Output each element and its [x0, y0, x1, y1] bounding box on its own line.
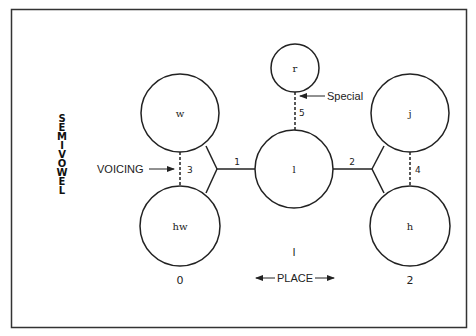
edge-1-label: 1	[234, 157, 240, 167]
edge-4-label: 4	[415, 165, 421, 175]
semivowel-feature-diagram: SEMIVOWEL 1 2 3 4 5 w hw l r j h VOICING…	[0, 0, 476, 336]
left-junction	[206, 146, 217, 193]
node-j-label: j	[407, 108, 411, 119]
place-left-value: 0	[177, 274, 184, 287]
node-r-label: r	[293, 63, 298, 74]
place-label: PLACE	[277, 272, 313, 284]
special-label: Special	[327, 90, 363, 102]
node-w-label: w	[176, 108, 185, 119]
side-label-letter: L	[59, 185, 66, 196]
place-right-value: 2	[407, 274, 414, 287]
node-h-label: h	[407, 221, 414, 232]
voicing-label: VOICING	[97, 163, 143, 175]
right-junction	[372, 146, 384, 193]
semivowel-side-label: SEMIVOWEL	[56, 113, 67, 196]
edge-3-label: 3	[187, 165, 193, 175]
node-l-label: l	[292, 164, 295, 175]
edge-5-label: 5	[299, 108, 305, 118]
node-hw-label: hw	[173, 221, 188, 232]
edge-2-label: 2	[349, 157, 355, 167]
place-center-value: l	[292, 246, 295, 259]
